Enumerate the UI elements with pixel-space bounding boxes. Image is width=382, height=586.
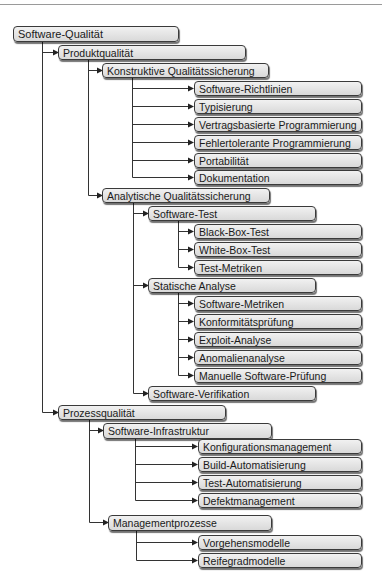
- node-konformitaetspruefung[interactable]: Konformitätsprüfung: [194, 314, 362, 329]
- node-analytische-qs[interactable]: Analytische Qualitätssicherung: [102, 188, 270, 203]
- node-software-richtlinien[interactable]: Software-Richtlinien: [194, 81, 362, 96]
- node-reifegradmodelle[interactable]: Reifegradmodelle: [198, 553, 362, 568]
- node-software-metriken[interactable]: Software-Metriken: [194, 296, 362, 311]
- node-produktqualitaet[interactable]: Produktqualität: [58, 45, 246, 60]
- node-exploit-analyse[interactable]: Exploit-Analyse: [194, 332, 362, 347]
- node-managementprozesse[interactable]: Managementprozesse: [108, 515, 272, 531]
- node-software-infrastruktur[interactable]: Software-Infrastruktur: [103, 423, 272, 439]
- node-black-box-test[interactable]: Black-Box-Test: [194, 224, 362, 239]
- node-test-metriken[interactable]: Test-Metriken: [194, 260, 362, 275]
- node-anomalienanalyse[interactable]: Anomalienanalyse: [194, 350, 362, 365]
- node-test-automatisierung[interactable]: Test-Automatisierung: [198, 475, 362, 490]
- node-build-automatisierung[interactable]: Build-Automatisierung: [198, 457, 362, 472]
- node-statische-analyse[interactable]: Statische Analyse: [148, 278, 316, 293]
- node-software-verifikation[interactable]: Software-Verifikation: [148, 386, 316, 401]
- node-software-qualitaet[interactable]: Software-Qualität: [13, 26, 179, 42]
- node-vorgehensmodelle[interactable]: Vorgehensmodelle: [198, 535, 362, 550]
- node-portabilitaet[interactable]: Portabilität: [194, 153, 362, 168]
- node-prozessqualitaet[interactable]: Prozessqualität: [58, 405, 226, 420]
- node-konfigurationsmanagement[interactable]: Konfigurationsmanagement: [198, 439, 362, 454]
- node-software-test[interactable]: Software-Test: [148, 206, 316, 221]
- node-dokumentation[interactable]: Dokumentation: [194, 170, 362, 185]
- node-manuelle-software-pruefung[interactable]: Manuelle Software-Prüfung: [194, 368, 362, 383]
- node-vertragsbasierte-programmierung[interactable]: Vertragsbasierte Programmierung: [194, 117, 362, 132]
- node-defektmanagement[interactable]: Defektmanagement: [198, 493, 362, 508]
- node-fehlertolerante-programmierung[interactable]: Fehlertolerante Programmierung: [194, 135, 362, 150]
- node-white-box-test[interactable]: White-Box-Test: [194, 242, 362, 257]
- node-typisierung[interactable]: Typisierung: [194, 99, 362, 114]
- node-konstruktive-qs[interactable]: Konstruktive Qualitätssicherung: [102, 63, 269, 78]
